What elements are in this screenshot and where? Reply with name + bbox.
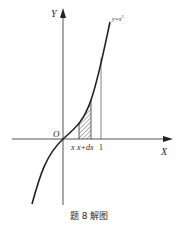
figure-caption: 题 8 解图 (70, 210, 108, 221)
tick-label-x-plus-dx: x+dx (76, 143, 94, 152)
tick-label-x: x (70, 143, 75, 152)
curve-label-exponent: 3 (121, 14, 123, 19)
tick-label-one: 1 (99, 143, 103, 152)
y-axis-label: Y (51, 8, 58, 19)
y-axis-arrow-icon (60, 8, 66, 18)
curve-label: y=x3 (111, 14, 123, 22)
curve-label-text: y=x (111, 16, 122, 22)
x-axis-label: X (160, 146, 168, 157)
cubic-curve (32, 22, 110, 204)
origin-label: O (53, 129, 60, 139)
x-axis-arrow-icon (163, 136, 173, 142)
cubic-curve-diagram: Y X O y=x3 x x+dx 1 题 8 解图 (0, 0, 184, 231)
